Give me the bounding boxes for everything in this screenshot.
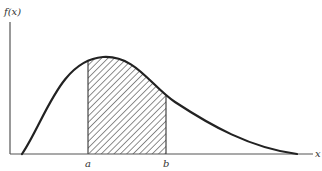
density-diagram: f(x) x a b <box>0 0 322 171</box>
y-axis-label: f(x) <box>3 6 21 17</box>
x-axis-label: x <box>315 148 321 159</box>
upper-bound-label: b <box>163 158 169 169</box>
shaded-area <box>22 57 297 154</box>
lower-bound-label: a <box>85 158 91 169</box>
